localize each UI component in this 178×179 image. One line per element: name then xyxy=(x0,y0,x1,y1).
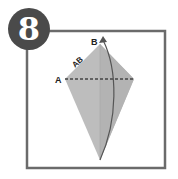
step-number: 8 xyxy=(18,10,40,48)
label-b: B xyxy=(91,37,98,47)
origami-diagram: 8 A B AB xyxy=(0,0,178,179)
label-a: A xyxy=(55,75,62,85)
arrow-head-icon xyxy=(99,36,107,43)
kite-paper-right-shade xyxy=(100,44,134,160)
